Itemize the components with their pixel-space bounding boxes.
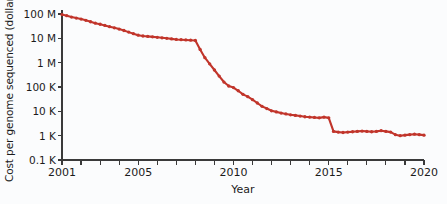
data-point-marker: [156, 36, 159, 39]
data-point-marker: [313, 116, 316, 119]
data-point-marker: [351, 130, 354, 133]
data-point-marker: [341, 131, 344, 134]
data-point-marker: [118, 27, 121, 30]
data-point-marker: [89, 20, 92, 23]
data-point-marker: [237, 89, 240, 92]
data-point-marker: [132, 32, 135, 35]
data-point-marker: [246, 95, 249, 98]
data-point-marker: [394, 133, 397, 136]
data-point-marker: [203, 56, 206, 59]
data-point-marker: [422, 134, 425, 137]
data-point-markers: [60, 13, 425, 137]
data-point-marker: [332, 130, 335, 133]
data-point-marker: [60, 13, 63, 16]
data-point-marker: [384, 130, 387, 133]
data-point-marker: [303, 115, 306, 118]
data-point-marker: [208, 62, 211, 65]
data-point-marker: [108, 25, 111, 28]
data-point-marker: [189, 39, 192, 42]
data-point-marker: [413, 133, 416, 136]
data-point-marker: [179, 38, 182, 41]
data-point-marker: [113, 26, 116, 29]
data-point-marker: [256, 101, 259, 104]
data-point-marker: [360, 129, 363, 132]
axis-tick-marks: [58, 14, 424, 165]
data-point-marker: [260, 105, 263, 108]
data-point-marker: [141, 34, 144, 37]
data-point-marker: [65, 14, 68, 17]
data-point-marker: [365, 130, 368, 133]
data-point-marker: [289, 113, 292, 116]
data-series-line: [62, 15, 424, 136]
data-point-marker: [299, 114, 302, 117]
data-point-marker: [79, 17, 82, 20]
data-point-marker: [198, 48, 201, 51]
data-point-marker: [151, 35, 154, 38]
data-point-marker: [251, 98, 254, 101]
data-point-marker: [75, 16, 78, 19]
data-point-marker: [227, 84, 230, 87]
data-point-marker: [213, 68, 216, 71]
data-point-marker: [418, 133, 421, 136]
data-point-marker: [175, 38, 178, 41]
data-point-marker: [184, 38, 187, 41]
data-point-marker: [375, 130, 378, 133]
data-point-marker: [194, 39, 197, 42]
data-point-marker: [84, 19, 87, 22]
plot-area: [0, 0, 447, 204]
data-point-marker: [275, 110, 278, 113]
data-point-marker: [346, 130, 349, 133]
data-point-marker: [399, 134, 402, 137]
data-point-marker: [408, 133, 411, 136]
data-point-marker: [337, 130, 340, 133]
data-point-marker: [322, 115, 325, 118]
data-point-marker: [279, 111, 282, 114]
data-point-marker: [127, 30, 130, 33]
data-point-marker: [232, 86, 235, 89]
chart-figure: Cost per genome sequenced (dollars) 100 …: [0, 0, 447, 204]
data-point-marker: [160, 36, 163, 39]
data-point-marker: [103, 24, 106, 27]
data-point-marker: [403, 134, 406, 137]
data-point-marker: [98, 23, 101, 26]
data-point-marker: [370, 130, 373, 133]
data-point-marker: [137, 34, 140, 37]
axes-lines: [62, 10, 424, 160]
data-point-marker: [70, 15, 73, 18]
data-point-marker: [218, 74, 221, 77]
data-point-marker: [94, 22, 97, 25]
data-point-marker: [294, 114, 297, 117]
data-point-marker: [284, 112, 287, 115]
data-point-marker: [222, 80, 225, 83]
series-line: [62, 15, 424, 136]
data-point-marker: [379, 129, 382, 132]
data-point-marker: [146, 35, 149, 38]
data-point-marker: [170, 37, 173, 40]
data-point-marker: [165, 37, 168, 40]
data-point-marker: [265, 107, 268, 110]
data-point-marker: [389, 130, 392, 133]
data-point-marker: [318, 116, 321, 119]
data-point-marker: [122, 29, 125, 32]
data-point-marker: [270, 109, 273, 112]
data-point-marker: [356, 130, 359, 133]
data-point-marker: [241, 93, 244, 96]
data-point-marker: [308, 115, 311, 118]
data-point-marker: [327, 116, 330, 119]
